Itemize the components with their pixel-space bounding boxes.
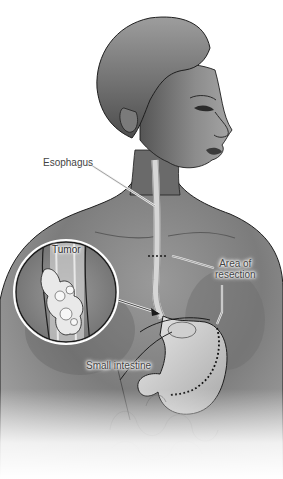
- label-esophagus: Esophagus: [43, 157, 93, 168]
- label-tumor: Tumor: [52, 244, 81, 255]
- label-resection-line2: resection: [215, 269, 256, 280]
- medical-illustration: Esophagus Tumor Area of resection Small …: [0, 0, 283, 479]
- label-small-intestine: Small intestine: [86, 360, 151, 371]
- label-resection-line1: Area of: [215, 258, 256, 269]
- head: [97, 17, 232, 168]
- label-area-of-resection: Area of resection: [215, 258, 256, 280]
- anatomy-drawing: [0, 0, 283, 479]
